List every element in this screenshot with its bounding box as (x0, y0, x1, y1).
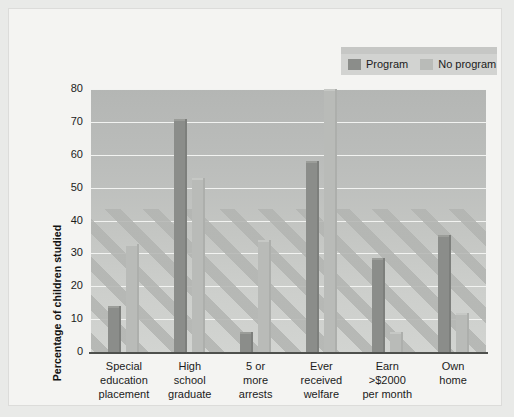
legend-row: Program No program (341, 55, 497, 74)
gridline (91, 253, 486, 254)
bar-program (306, 161, 319, 352)
bar-program (174, 119, 187, 352)
legend-item-no-program: No program (420, 59, 496, 70)
legend-top-band (341, 47, 497, 54)
bar-program (108, 306, 121, 352)
bar-no-program (390, 332, 403, 352)
bar-right-shadow (203, 178, 205, 352)
gridline (91, 122, 486, 123)
bar-no-program (324, 89, 337, 352)
legend-item-program: Program (348, 59, 408, 70)
bar-right-shadow (383, 258, 385, 352)
y-axis-title-wrapper: Percentage of children studied (35, 129, 51, 309)
bar-no-program (456, 313, 469, 352)
bar-right-shadow (467, 313, 469, 352)
figure-container: Program No program Percentage of childre… (0, 0, 514, 417)
bar-no-program (126, 244, 139, 352)
gridline (91, 319, 486, 320)
gridline (91, 221, 486, 222)
legend-swatch-no-program (420, 59, 433, 70)
watermark-stripes (91, 209, 486, 352)
x-category-line: home (410, 373, 496, 387)
bar-program (372, 258, 385, 352)
bar-no-program (192, 178, 205, 352)
bar-no-program (258, 240, 271, 352)
legend-label-program: Program (366, 59, 408, 70)
bar-right-shadow (185, 119, 187, 352)
bar-program (438, 235, 451, 352)
y-tick-label: 60 (57, 149, 83, 160)
y-tick-label: 80 (57, 83, 83, 94)
legend-label-no-program: No program (438, 59, 496, 70)
y-tick-label: 30 (57, 247, 83, 258)
bar-right-shadow (335, 89, 337, 352)
gridline (91, 89, 486, 90)
y-axis-title: Percentage of children studied (51, 213, 63, 393)
bar-right-shadow (137, 244, 139, 352)
gridline (91, 286, 486, 287)
x-category-line: per month (344, 387, 430, 401)
x-category-line: Own (410, 359, 496, 373)
y-tick-label: 10 (57, 313, 83, 324)
x-category-label: Ownhome (410, 359, 496, 387)
y-tick-label: 0 (57, 346, 83, 357)
bar-right-shadow (401, 332, 403, 352)
bar-right-shadow (119, 306, 121, 352)
gridline (91, 188, 486, 189)
y-tick-label: 70 (57, 116, 83, 127)
figure-mat: Program No program Percentage of childre… (8, 8, 502, 406)
legend-swatch-program (348, 59, 361, 70)
bar-right-shadow (269, 240, 271, 352)
bar-program (240, 332, 253, 352)
gridline (91, 155, 486, 156)
bar-right-shadow (251, 332, 253, 352)
plot-area (91, 89, 486, 352)
bar-right-shadow (449, 235, 451, 352)
bar-right-shadow (317, 161, 319, 352)
y-tick-label: 20 (57, 280, 83, 291)
x-axis-line (89, 352, 488, 354)
y-tick-label: 50 (57, 182, 83, 193)
chart-legend: Program No program (341, 47, 497, 75)
y-tick-label: 40 (57, 215, 83, 226)
